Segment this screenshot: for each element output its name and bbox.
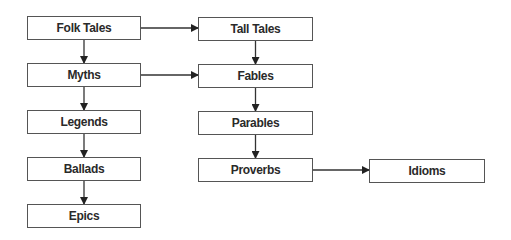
node-label: Myths: [67, 68, 100, 82]
node-tall-tales: Tall Tales: [198, 17, 313, 41]
node-label: Ballads: [64, 162, 105, 176]
node-myths: Myths: [27, 63, 141, 87]
node-parables: Parables: [198, 111, 313, 135]
node-idioms: Idioms: [369, 159, 485, 183]
node-label: Tall Tales: [231, 22, 281, 36]
node-folk-tales: Folk Tales: [27, 16, 141, 40]
node-label: Parables: [232, 116, 280, 130]
node-epics: Epics: [27, 204, 141, 228]
node-ballads: Ballads: [27, 157, 141, 181]
node-fables: Fables: [198, 64, 313, 88]
node-label: Fables: [237, 69, 273, 83]
node-label: Folk Tales: [57, 21, 112, 35]
node-label: Epics: [69, 209, 100, 223]
node-label: Idioms: [409, 164, 446, 178]
node-legends: Legends: [27, 110, 141, 134]
node-proverbs: Proverbs: [198, 158, 313, 182]
node-label: Proverbs: [231, 163, 281, 177]
node-label: Legends: [60, 115, 107, 129]
